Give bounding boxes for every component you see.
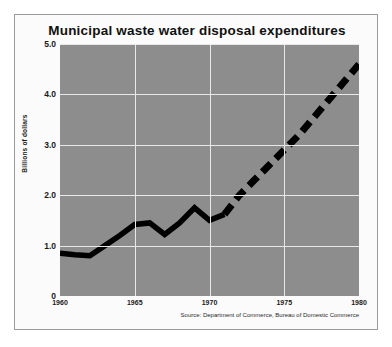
y-axis-tick-label: 2.0 (16, 191, 56, 200)
x-axis-tick-label: 1970 (202, 299, 218, 306)
gridline-vertical (210, 44, 211, 296)
data-series-line (60, 208, 224, 256)
chart-title: Municipal waste water disposal expenditu… (15, 23, 379, 38)
chart-figure: Municipal waste water disposal expenditu… (14, 14, 378, 330)
x-axis-tick-label: 1960 (52, 299, 68, 306)
gridline-vertical (284, 44, 285, 296)
x-axis-tick-label: 1965 (127, 299, 143, 306)
x-axis-ticks: 19601965197019751980 (60, 299, 359, 311)
plot-area (60, 44, 359, 296)
y-axis-tick-label: 5.0 (16, 40, 56, 49)
data-series-line (224, 64, 359, 214)
gridline-vertical (135, 44, 136, 296)
y-axis-tick-label: 1.0 (16, 242, 56, 251)
x-axis-tick-label: 1980 (351, 299, 367, 306)
y-axis-tick-label: 0 (16, 292, 56, 301)
x-axis-tick-label: 1975 (276, 299, 292, 306)
y-axis-tick-label: 3.0 (16, 141, 56, 150)
source-note: Source: Department of Commerce, Bureau o… (181, 312, 359, 318)
y-axis-tick-label: 4.0 (16, 90, 56, 99)
y-axis-ticks: 01.02.03.04.05.0 (15, 44, 56, 296)
